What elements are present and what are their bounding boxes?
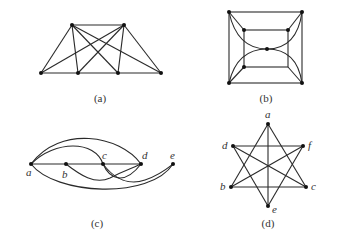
vertex xyxy=(39,71,43,75)
vertex-label-c: c xyxy=(311,180,316,192)
vertex xyxy=(76,71,80,75)
vertex-c xyxy=(101,162,105,166)
graph-d: a b c d e f (d) xyxy=(220,108,316,230)
graph-b: (b) xyxy=(227,10,304,105)
vertex-d xyxy=(139,162,143,166)
vertex xyxy=(159,71,163,75)
vertex-a xyxy=(266,122,270,126)
figure-canvas: (a) (b) a b c d e xyxy=(0,0,339,243)
caption-c: (c) xyxy=(91,217,104,230)
vertex xyxy=(227,81,231,85)
vertex-e xyxy=(266,204,270,208)
vertex-label-a: a xyxy=(26,166,32,178)
vertex-c xyxy=(304,185,308,189)
graph-c: a b c d e (c) xyxy=(26,138,175,230)
vertex-label-b: b xyxy=(62,168,68,180)
vertex-label-d: d xyxy=(222,139,228,151)
vertex xyxy=(70,23,74,27)
vertex xyxy=(300,81,304,85)
vertex-label-e: e xyxy=(170,149,175,161)
vertex-b xyxy=(64,162,68,166)
vertex-label-c: c xyxy=(102,149,107,161)
vertex-d xyxy=(231,144,235,148)
vertex-f xyxy=(301,144,305,148)
caption-a: (a) xyxy=(94,92,107,105)
vertex-label-f: f xyxy=(308,139,313,151)
vertex xyxy=(286,28,290,32)
vertex-label-a: a xyxy=(265,108,271,120)
vertex-label-d: d xyxy=(142,149,148,161)
vertex xyxy=(116,71,120,75)
vertex xyxy=(265,47,269,51)
graph-a: (a) xyxy=(39,23,163,105)
caption-d: (d) xyxy=(262,217,275,230)
caption-b: (b) xyxy=(260,92,273,105)
vertex-label-b: b xyxy=(220,180,226,192)
vertex xyxy=(300,10,304,14)
vertex xyxy=(227,10,231,14)
vertex xyxy=(122,23,126,27)
vertex-label-e: e xyxy=(272,203,277,215)
vertex xyxy=(242,28,246,32)
vertex-b xyxy=(229,185,233,189)
vertex xyxy=(242,65,246,69)
vertex-e xyxy=(171,162,175,166)
